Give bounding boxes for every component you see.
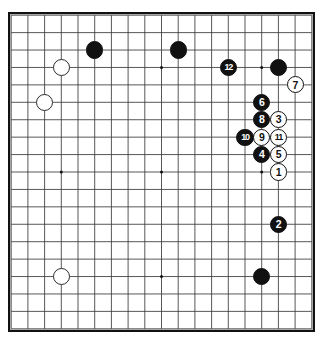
stone-move-2: 2	[270, 216, 287, 233]
stone-move-number: 11	[275, 132, 282, 141]
stone-move-number: 4	[259, 149, 264, 160]
stone-move-number: 7	[292, 79, 297, 90]
stone-move-number: 12	[224, 62, 232, 71]
stone-white-lower-left-star	[53, 268, 70, 285]
go-diagram-figure: 127683109114512	[0, 0, 324, 344]
go-board[interactable]: 127683109114512	[8, 12, 315, 332]
stone-move-9: 9	[253, 129, 270, 146]
stone-move-number: 5	[276, 149, 281, 160]
stone-move-5: 5	[270, 146, 287, 163]
stone-move-1: 1	[270, 163, 287, 180]
stone-move-11: 11	[270, 129, 287, 146]
stone-black-upper-left-approach	[86, 41, 103, 58]
stone-white-left-side	[36, 94, 53, 111]
stone-move-number: 2	[276, 219, 281, 230]
stone-move-number: 10	[241, 132, 249, 141]
stone-white-upper-left-star	[53, 59, 70, 76]
stone-black-upper-right-corner	[270, 59, 287, 76]
stone-move-10: 10	[236, 129, 253, 146]
stone-move-number: 6	[259, 97, 264, 108]
stone-move-number: 9	[259, 131, 264, 142]
stone-move-number: 1	[276, 166, 281, 177]
stone-move-12: 12	[220, 59, 237, 76]
stone-black-upper-center	[170, 41, 187, 58]
stone-move-number: 3	[276, 114, 281, 125]
board-grid	[8, 12, 315, 332]
stone-move-number: 8	[259, 114, 264, 125]
